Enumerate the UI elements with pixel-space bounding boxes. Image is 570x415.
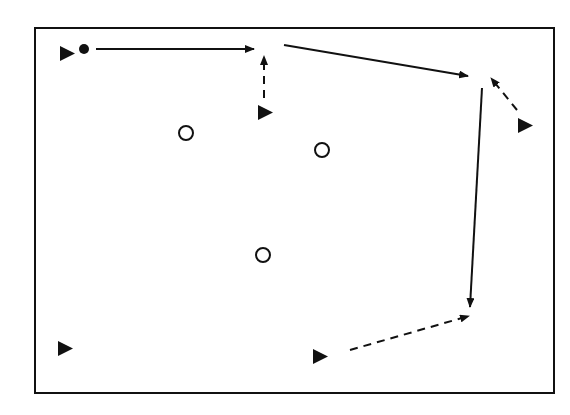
defender-circle-icon (256, 248, 270, 262)
player-triangle-icon (58, 341, 73, 356)
arrows-layer (96, 45, 517, 350)
defender-circle-icon (179, 126, 193, 140)
player-triangle-icon (60, 46, 75, 61)
dashed-arrow (350, 316, 469, 350)
defenders-layer (179, 126, 329, 262)
player-triangle-icon (518, 118, 533, 133)
defender-circle-icon (315, 143, 329, 157)
play-diagram (0, 0, 570, 415)
solid-arrow (470, 88, 482, 307)
solid-arrow (284, 45, 468, 76)
player-triangle-icon (313, 349, 328, 364)
dashed-arrow (491, 78, 517, 110)
player-triangle-icon (258, 105, 273, 120)
players-layer (58, 46, 533, 364)
ball-icon (79, 44, 89, 54)
